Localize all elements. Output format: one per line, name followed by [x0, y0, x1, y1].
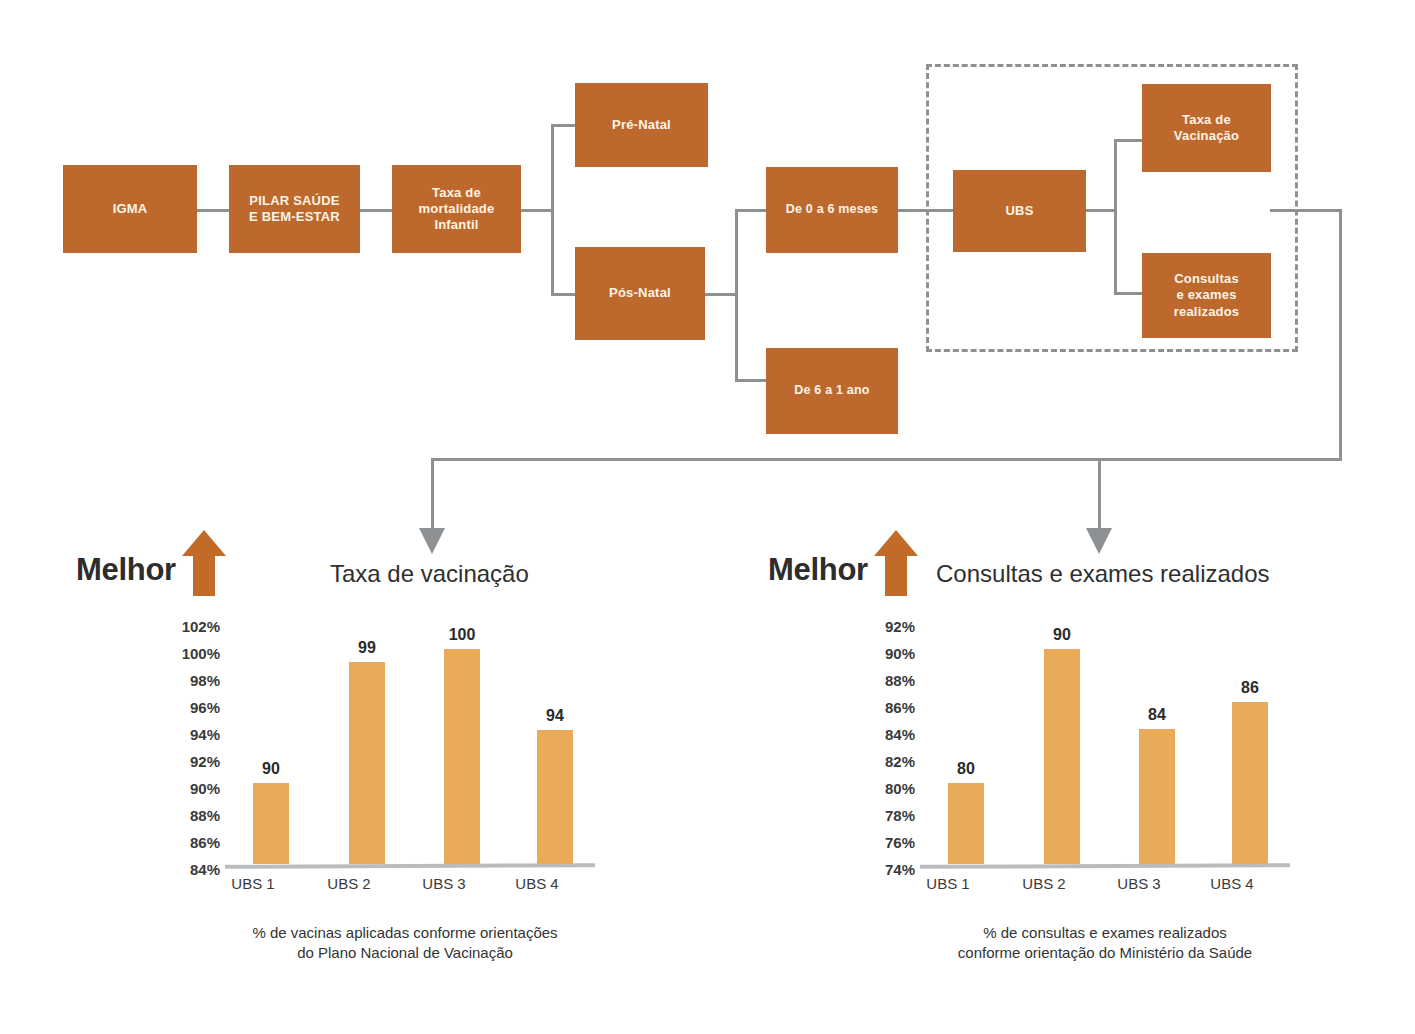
- x-tick-label-ubs-4: UBS 4: [497, 875, 577, 892]
- y-tick-label: 102%: [182, 619, 220, 634]
- chart-title-right: Consultas e exames realizados: [936, 560, 1270, 588]
- y-tick-label: 92%: [885, 619, 915, 634]
- bar-ubs-4[interactable]: [1232, 702, 1268, 864]
- y-tick-label: 98%: [190, 673, 220, 688]
- melhor-label-left: Melhor: [76, 552, 176, 588]
- bar-value-ubs-2: 90: [1032, 626, 1092, 644]
- bar-ubs-2[interactable]: [1044, 649, 1080, 864]
- y-tick-label: 80%: [885, 781, 915, 796]
- y-tick-label: 88%: [885, 673, 915, 688]
- y-axis-labels-left: 102% 100% 98% 96% 94% 92% 90% 88% 86% 84…: [150, 612, 220, 882]
- y-tick-label: 86%: [190, 835, 220, 850]
- chart-panel-consultas-exames: Melhor Consultas e exames realizados 92%…: [700, 0, 1415, 1034]
- bar-value-ubs-3: 84: [1127, 706, 1187, 724]
- chart-caption-left: % de vacinas aplicadas conforme orientaç…: [175, 923, 635, 964]
- bar-value-ubs-2: 99: [337, 639, 397, 657]
- x-tick-label-ubs-4: UBS 4: [1192, 875, 1272, 892]
- bar-ubs-1[interactable]: [253, 783, 289, 864]
- x-tick-label-ubs-3: UBS 3: [1099, 875, 1179, 892]
- x-tick-label-ubs-2: UBS 2: [1004, 875, 1084, 892]
- y-tick-label: 88%: [190, 808, 220, 823]
- infographic-canvas: IGMA PILAR SAÚDE E BEM-ESTAR Taxa de mor…: [0, 0, 1415, 1034]
- x-tick-label-ubs-2: UBS 2: [309, 875, 389, 892]
- bar-ubs-3[interactable]: [1139, 729, 1175, 864]
- x-tick-label-ubs-1: UBS 1: [213, 875, 293, 892]
- y-tick-label: 84%: [885, 727, 915, 742]
- bar-value-ubs-1: 80: [936, 760, 996, 778]
- y-tick-label: 90%: [885, 646, 915, 661]
- y-axis-labels-right: 92% 90% 88% 86% 84% 82% 80% 78% 76% 74%: [845, 612, 915, 882]
- y-tick-label: 100%: [182, 646, 220, 661]
- x-tick-label-ubs-3: UBS 3: [404, 875, 484, 892]
- y-tick-label: 86%: [885, 700, 915, 715]
- chart-panel-taxa-vacinacao: Melhor Taxa de vacinação 102% 100% 98% 9…: [0, 0, 700, 1034]
- x-tick-label-ubs-1: UBS 1: [908, 875, 988, 892]
- y-tick-label: 82%: [885, 754, 915, 769]
- melhor-up-arrow-icon-right: [874, 530, 918, 596]
- y-tick-label: 94%: [190, 727, 220, 742]
- bar-value-ubs-4: 86: [1220, 679, 1280, 697]
- plot-area-right: 80 90 84 86: [920, 600, 1300, 870]
- y-tick-label: 78%: [885, 808, 915, 823]
- chart-caption-right: % de consultas e exames realizados confo…: [855, 923, 1355, 964]
- chart-title-left: Taxa de vacinação: [330, 560, 529, 588]
- melhor-label-right: Melhor: [768, 552, 868, 588]
- bar-value-ubs-4: 94: [525, 707, 585, 725]
- y-tick-label: 90%: [190, 781, 220, 796]
- y-tick-label: 96%: [190, 700, 220, 715]
- bar-ubs-2[interactable]: [349, 662, 385, 864]
- y-tick-label: 76%: [885, 835, 915, 850]
- bar-ubs-1[interactable]: [948, 783, 984, 864]
- plot-area-left: 90 99 100 94: [225, 600, 605, 870]
- y-tick-label: 92%: [190, 754, 220, 769]
- bar-ubs-4[interactable]: [537, 730, 573, 864]
- melhor-up-arrow-icon-left: [182, 530, 226, 596]
- bar-value-ubs-3: 100: [432, 626, 492, 644]
- bar-ubs-3[interactable]: [444, 649, 480, 864]
- bar-value-ubs-1: 90: [241, 760, 301, 778]
